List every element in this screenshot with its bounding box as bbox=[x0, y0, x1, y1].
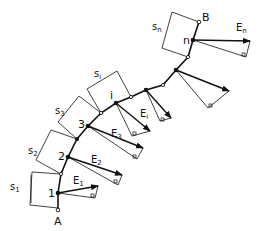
node-i1 bbox=[144, 88, 149, 93]
node-2b bbox=[75, 137, 79, 141]
label-A: A bbox=[54, 215, 62, 228]
vector-E1 bbox=[58, 186, 98, 193]
segment-box-sn bbox=[162, 12, 199, 57]
node-n1 bbox=[174, 68, 179, 73]
label-node-n: n bbox=[183, 34, 190, 47]
label-sn: sn bbox=[152, 21, 162, 34]
label-node-2: 2 bbox=[58, 150, 65, 163]
label-s3: s3 bbox=[55, 105, 65, 118]
curve-vector-diagram: A B 1 2 3 i n s1 s2 s3 si sn E1 E2 E3 Ei… bbox=[0, 0, 262, 231]
node-n bbox=[191, 38, 196, 43]
node-1 bbox=[56, 191, 61, 196]
endpoint-A bbox=[56, 208, 60, 212]
vector-intermediate-1 bbox=[146, 90, 171, 118]
label-B: B bbox=[202, 11, 210, 24]
labels: A B 1 2 3 i n s1 s2 s3 si sn E1 E2 E3 Ei… bbox=[10, 11, 247, 228]
segment-box-s1 bbox=[30, 172, 61, 208]
right-angle-marks bbox=[91, 53, 245, 197]
diagram-canvas: A B 1 2 3 i n s1 s2 s3 si sn E1 E2 E3 Ei… bbox=[0, 0, 262, 231]
filled-nodes bbox=[56, 38, 196, 196]
vector-En bbox=[193, 40, 250, 41]
node-3 bbox=[86, 124, 91, 129]
label-node-i: i bbox=[110, 89, 113, 102]
label-s1: s1 bbox=[10, 181, 20, 194]
label-E1: E1 bbox=[73, 175, 84, 188]
label-E3: E3 bbox=[111, 128, 122, 141]
vector-triangles bbox=[58, 40, 250, 198]
vector-intermediate-2 bbox=[176, 70, 229, 91]
label-Ei: Ei bbox=[140, 108, 148, 121]
endpoint-B bbox=[197, 20, 201, 24]
node-i bbox=[114, 101, 119, 106]
label-s2: s2 bbox=[28, 145, 38, 158]
label-si: si bbox=[94, 68, 101, 81]
label-En: En bbox=[236, 22, 247, 35]
label-node-3: 3 bbox=[78, 118, 85, 131]
label-node-1: 1 bbox=[48, 187, 55, 200]
node-2 bbox=[66, 155, 71, 160]
